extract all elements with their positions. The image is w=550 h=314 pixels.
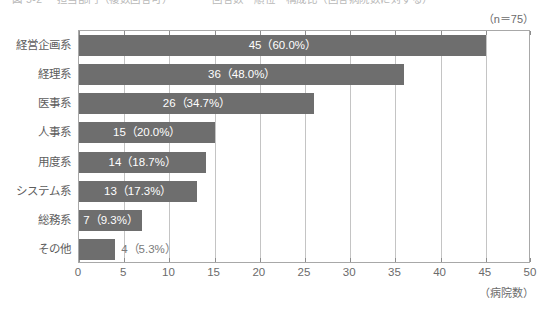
x-axis-tick-mark [530,31,531,35]
bar-value-label: 14（18.7%） [79,152,206,173]
category-label: システム系 [16,177,71,206]
x-axis-tick-label: 45 [478,266,491,278]
bar-row: 用度系14（18.7%） [79,148,529,177]
x-axis-tick-label: 35 [388,266,401,278]
bar-value-label: 45（60.0%） [79,35,486,56]
bar-row: 医事系26（34.7%） [79,89,529,118]
x-axis-tick-label: 25 [298,266,311,278]
plot-area: 経営企画系45（60.0%）経理系36（48.0%）医事系26（34.7%）人事… [78,30,530,263]
bar-row: システム系13（17.3%） [79,177,529,206]
category-label: その他 [38,235,71,264]
x-axis-tick-label: 5 [120,266,126,278]
bar-row: 経営企画系45（60.0%） [79,31,529,60]
x-axis-tick-label: 10 [162,266,175,278]
bar-row: 人事系15（20.0%） [79,118,529,147]
bar-value-label: 15（20.0%） [79,122,215,143]
bar-row: 経理系36（48.0%） [79,60,529,89]
sample-size-note: （n＝75） [483,10,534,26]
bar-value-label: 7（9.3%） [79,210,142,231]
category-label: 経営企画系 [16,31,71,60]
x-axis-tick-mark [530,258,531,262]
category-label: 用度系 [38,148,71,177]
x-axis-tick-label: 0 [75,266,81,278]
bar-value-label: 26（34.7%） [79,93,314,114]
category-label: 医事系 [38,89,71,118]
x-axis-tick-label: 50 [524,266,537,278]
bar-value-label: 4（5.3%） [121,239,176,260]
x-axis-tick-label: 40 [433,266,446,278]
x-axis-unit-label: （病院数） [479,284,534,300]
bar [79,239,115,260]
x-axis-tick-label: 15 [207,266,220,278]
bar-value-label: 13（17.3%） [79,181,197,202]
category-label: 経理系 [38,60,71,89]
bar-row: 総務系7（9.3%） [79,206,529,235]
bar-value-label: 36（48.0%） [79,64,404,85]
category-label: 人事系 [38,118,71,147]
category-label: 総務系 [38,206,71,235]
x-axis-tick-label: 20 [252,266,265,278]
x-axis-tick-label: 30 [343,266,356,278]
chart-figure: 図 5-2 担当部門（複数回答可） 回答数 順位 構成比（回答病院数に対する） … [0,0,550,314]
figure-caption: 図 5-2 担当部門（複数回答可） 回答数 順位 構成比（回答病院数に対する） [12,0,433,6]
bar-row: その他4（5.3%） [79,235,529,264]
